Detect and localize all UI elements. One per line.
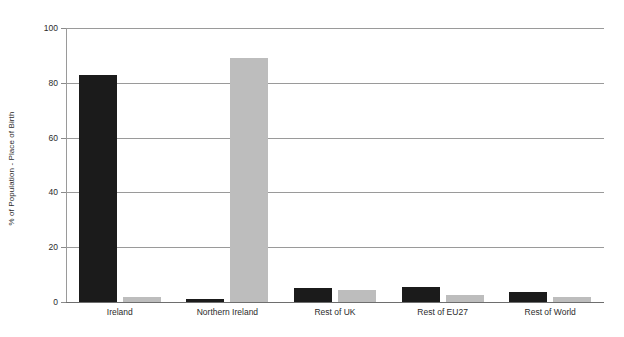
x-label-rest-of-eu27: Rest of EU27	[417, 307, 468, 317]
y-axis-title: % of Population - Place of Birth	[0, 0, 22, 337]
y-tick-mark-0	[61, 302, 66, 303]
bar-rest-of-eu27-series-1	[402, 287, 440, 302]
y-tick-label-0: 0	[18, 297, 58, 307]
bars-layer	[66, 28, 604, 302]
y-tick-label-80: 80	[18, 78, 58, 88]
y-tick-label-20: 20	[18, 242, 58, 252]
y-tick-label-60: 60	[18, 133, 58, 143]
bar-rest-of-eu27-series-2	[446, 295, 484, 302]
bar-chart: % of Population - Place of Birth 0204060…	[0, 0, 624, 337]
y-tick-label-40: 40	[18, 187, 58, 197]
bar-northern-ireland-series-1	[186, 299, 224, 302]
x-label-rest-of-uk: Rest of UK	[314, 307, 355, 317]
x-label-northern-ireland: Northern Ireland	[197, 307, 258, 317]
x-label-rest-of-world: Rest of World	[525, 307, 576, 317]
bar-northern-ireland-series-2	[230, 58, 268, 302]
bar-rest-of-world-series-2	[553, 297, 591, 302]
bar-ireland-series-2	[123, 297, 161, 302]
gridline-0	[66, 302, 604, 303]
bar-rest-of-uk-series-1	[294, 288, 332, 302]
x-label-ireland: Ireland	[107, 307, 133, 317]
bar-rest-of-world-series-1	[509, 292, 547, 302]
y-tick-label-100: 100	[18, 23, 58, 33]
x-axis-category-labels: IrelandNorthern IrelandRest of UKRest of…	[66, 307, 604, 327]
bar-ireland-series-1	[79, 75, 117, 302]
bar-rest-of-uk-series-2	[338, 290, 376, 302]
plot-area	[66, 28, 604, 302]
